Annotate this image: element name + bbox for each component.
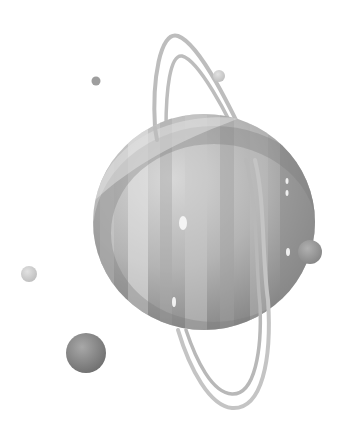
moon-small-top-left: [92, 77, 101, 86]
moon-top: [213, 70, 225, 82]
moon-right: [298, 240, 322, 264]
moon-left: [21, 266, 37, 282]
moon-bottom-left: [66, 333, 106, 373]
planet: [93, 110, 326, 340]
planet-illustration: [0, 0, 351, 446]
